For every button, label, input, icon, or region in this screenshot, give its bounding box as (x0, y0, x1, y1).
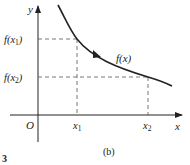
x-axis-label: x (174, 120, 180, 132)
fx1-label: f(x1) (4, 34, 23, 47)
origin-label: O (26, 119, 34, 131)
figure-number: 3 (2, 153, 7, 164)
fx2-label: f(x2) (4, 72, 23, 85)
function-curve (58, 5, 172, 86)
caption-label: (b) (103, 146, 115, 158)
curve-direction-arrow-icon (93, 50, 101, 58)
x2-label: x2 (142, 120, 152, 133)
y-axis-label: y (27, 3, 33, 15)
x1-label: x1 (72, 120, 82, 133)
decreasing-function-diagram: y x O f(x) f(x1) f(x2) x1 x2 (b) 3 (0, 0, 190, 165)
curve-label: f(x) (116, 52, 132, 65)
